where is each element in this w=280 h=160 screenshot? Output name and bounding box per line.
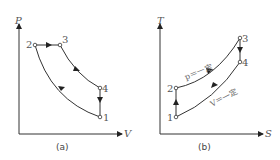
arrow-icon [237,47,243,53]
point-4-label: 4 [102,83,108,94]
process-1-2 [35,45,100,117]
v-axis-label: V [124,128,133,139]
pv-diagram: P V 2 3 4 1 (a) [14,15,133,152]
ts-diagram: T S 1 2 3 4 p＝一定 V＝一定 (b) [157,15,272,152]
arrow-icon [46,42,52,48]
t-axis-label: T [157,15,165,26]
p-axis-label: P [14,15,22,26]
point-3-label: 3 [242,33,248,44]
arrow-icon [173,99,179,105]
constant-pressure-label: p＝一定 [183,62,214,82]
process-3-4 [60,45,100,88]
point-2-label: 2 [167,83,173,94]
constant-volume-label: V＝一定 [207,86,239,109]
arrow-icon [97,97,103,103]
point-2-label: 2 [26,39,32,50]
caption-a: (a) [56,142,69,152]
diagram-canvas: P V 2 3 4 1 (a) T S [0,0,280,160]
point-1-label: 1 [167,112,173,123]
point-1-label: 1 [103,112,109,123]
caption-b: (b) [198,142,211,152]
arrow-icon [211,82,218,88]
point-4-label: 4 [242,57,248,68]
point-3-label: 3 [62,34,68,45]
s-axis-label: S [265,128,272,139]
